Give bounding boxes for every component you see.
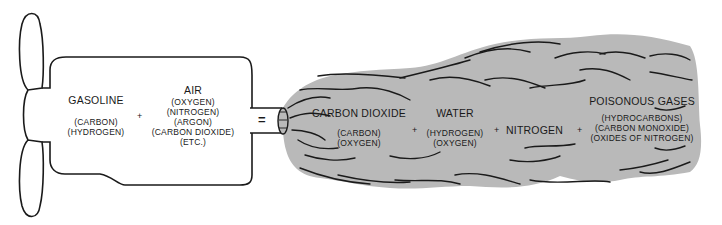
plus-sign: +: [412, 125, 417, 135]
poisonous-gases-component: (OXIDES OF NITROGEN): [589, 133, 695, 143]
equals-sign: =: [258, 112, 266, 127]
exhaust-pipe: [250, 108, 288, 134]
nitrogen-title: NITROGEN: [506, 124, 562, 137]
carbon-dioxide-label: CARBON DIOXIDE (CARBON) (OXYGEN): [310, 107, 408, 148]
water-title: WATER: [424, 107, 486, 120]
poisonous-gases-title: POISONOUS GASES: [589, 95, 695, 108]
air-component: (NITROGEN): [148, 107, 238, 117]
water-label: WATER (HYDROGEN) (OXYGEN): [424, 107, 486, 148]
plus-sign: +: [494, 125, 499, 135]
poisonous-gases-label: POISONOUS GASES (HYDROCARBONS) (CARBON M…: [589, 95, 695, 143]
water-component: (HYDROGEN): [424, 128, 486, 138]
plus-sign: +: [577, 125, 582, 135]
air-component: (CARBON DIOXIDE): [148, 127, 238, 137]
plus-sign: +: [137, 111, 142, 121]
carbon-dioxide-component: (OXYGEN): [310, 138, 408, 148]
nitrogen-label: NITROGEN: [506, 124, 562, 137]
air-component: (ARGON): [148, 117, 238, 127]
propeller: [20, 14, 44, 217]
air-label: AIR (OXYGEN) (NITROGEN) (ARGON) (CARBON …: [148, 84, 238, 148]
air-component: (OXYGEN): [148, 97, 238, 107]
poisonous-gases-component: (HYDROCARBONS): [589, 113, 695, 123]
water-component: (OXYGEN): [424, 138, 486, 148]
gasoline-title: GASOLINE: [66, 94, 126, 107]
gasoline-label: GASOLINE (CARBON) (HYDROGEN): [66, 94, 126, 137]
poisonous-gases-component: (CARBON MONOXIDE): [589, 123, 695, 133]
carbon-dioxide-title: CARBON DIOXIDE: [310, 107, 408, 120]
gasoline-component: (HYDROGEN): [66, 127, 126, 137]
gasoline-component: (CARBON): [66, 117, 126, 127]
carbon-dioxide-component: (CARBON): [310, 128, 408, 138]
air-title: AIR: [148, 84, 238, 97]
air-component: (ETC.): [148, 137, 238, 147]
